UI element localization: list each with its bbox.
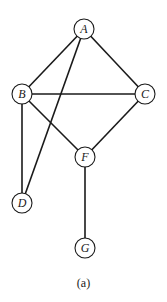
node-A: A — [74, 19, 94, 39]
graph-nodes: ABCFDG — [12, 19, 155, 258]
node-label: C — [141, 87, 150, 101]
figure-caption: (a) — [0, 276, 167, 291]
node-B: B — [12, 84, 32, 104]
graph-diagram: ABCFDG — [0, 0, 167, 302]
node-label: D — [17, 196, 27, 210]
node-label: A — [79, 22, 88, 36]
edge-A-C — [84, 29, 145, 94]
node-G: G — [75, 238, 95, 258]
node-label: G — [81, 241, 90, 255]
node-D: D — [12, 193, 32, 213]
edge-B-F — [22, 94, 85, 157]
node-label: B — [18, 87, 26, 101]
edge-A-D — [22, 29, 84, 203]
graph-edges — [22, 29, 145, 248]
node-label: F — [80, 150, 89, 164]
edge-A-B — [22, 29, 84, 94]
node-C: C — [135, 84, 155, 104]
edge-C-F — [85, 94, 145, 157]
node-F: F — [75, 147, 95, 167]
